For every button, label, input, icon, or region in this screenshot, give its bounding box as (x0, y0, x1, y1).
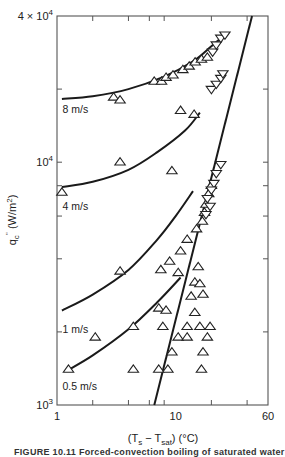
data-point-up-triangle (205, 322, 215, 329)
data-point-up-triangle (189, 110, 199, 117)
data-point-up-triangle (115, 267, 125, 274)
curve-4-m-s (62, 113, 200, 187)
data-point-up-triangle (182, 333, 192, 340)
data-point-up-triangle (175, 247, 185, 254)
data-point-up-triangle (128, 322, 138, 329)
data-point-up-triangle (175, 106, 185, 113)
y-tick-label: 103 (36, 397, 53, 411)
data-point-up-triangle (182, 235, 192, 242)
data-point-up-triangle (182, 322, 192, 329)
curve-label: 0.5 m/s (63, 380, 97, 392)
data-point-up-triangle (196, 365, 206, 372)
x-tick-label: 60 (262, 410, 274, 422)
data-point-down-triangle (202, 196, 212, 203)
data-point-up-triangle (173, 268, 183, 275)
y-tick-label: 104 (36, 154, 53, 168)
data-point-up-triangle (190, 308, 200, 315)
y-tick-label: 4 × 104 (18, 8, 54, 22)
data-point-up-triangle (173, 333, 183, 340)
figure-caption: FIGURE 10.11 Forced-convection boiling o… (14, 447, 285, 457)
data-point-up-triangle (158, 322, 168, 329)
x-axis-title: (Ts − Tsat) (°C) (128, 432, 199, 447)
data-point-down-triangle (216, 162, 226, 169)
x-tick-label: 10 (170, 410, 182, 422)
data-point-up-triangle (186, 292, 196, 299)
data-point-up-triangle (128, 365, 138, 372)
data-point-up-triangle (195, 322, 205, 329)
data-point-up-triangle (202, 333, 212, 340)
data-point-up-triangle (90, 333, 100, 340)
data-point-up-triangle (156, 265, 166, 272)
x-tick-label: 1 (54, 410, 60, 422)
curve-label: 8 m/s (63, 103, 89, 115)
data-point-up-triangle (198, 348, 208, 355)
y-axis-title: qc'' (W/m2) (4, 195, 21, 246)
curve-label: 1 m/s (63, 323, 89, 335)
data-point-up-triangle (198, 290, 208, 297)
data-point-up-triangle (193, 262, 203, 269)
data-point-up-triangle (57, 188, 67, 195)
data-point-up-triangle (167, 166, 177, 173)
curve-8-m-s (62, 33, 227, 99)
data-point-up-triangle (115, 158, 125, 165)
curve-labels: 8 m/s4 m/s1 m/s0.5 m/s (63, 103, 97, 391)
data-point-up-triangle (164, 257, 174, 264)
curve-label: 4 m/s (63, 200, 89, 212)
y-axis-ticks: 1031044 × 104 (18, 8, 268, 411)
